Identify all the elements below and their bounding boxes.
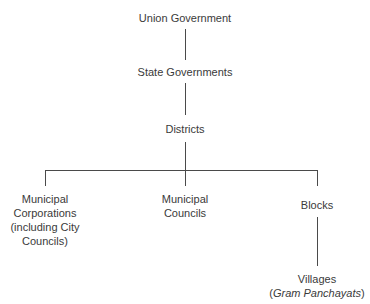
connector-blocks-to-villages	[317, 217, 318, 266]
node-label: Blocks	[301, 199, 333, 211]
node-label: Union Government	[139, 12, 231, 24]
node-villages: Villages (Gram Panchayats)	[269, 272, 364, 300]
node-label-line: (including City	[10, 220, 79, 234]
node-sublabel: (Gram Panchayats)	[269, 286, 364, 300]
connector-to-corporations	[45, 170, 46, 186]
node-blocks: Blocks	[301, 198, 333, 212]
node-label: State Governments	[138, 66, 233, 78]
node-municipal-councils: Municipal Councils	[162, 192, 208, 220]
node-municipal-corporations: Municipal Corporations (including City C…	[10, 192, 79, 248]
node-label-line: Councils	[162, 206, 208, 220]
node-union-government: Union Government	[139, 11, 231, 25]
gram-panchayats-label: Gram Panchayats	[273, 287, 361, 299]
node-districts: Districts	[165, 122, 204, 136]
node-label-line: Corporations	[10, 206, 79, 220]
node-label-line: Villages	[269, 272, 364, 286]
connector-districts-trunk	[185, 142, 186, 171]
paren-close: )	[361, 287, 365, 299]
connector-to-blocks	[317, 170, 318, 186]
node-label-line: Municipal	[10, 192, 79, 206]
node-label-line: Municipal	[162, 192, 208, 206]
connector-to-councils	[185, 170, 186, 186]
connector-union-to-states	[185, 29, 186, 60]
node-label-line: Councils)	[10, 234, 79, 248]
node-state-governments: State Governments	[138, 65, 233, 79]
connector-states-to-districts	[185, 83, 186, 115]
node-label: Districts	[165, 123, 204, 135]
connector-districts-branch-bar	[45, 170, 318, 171]
